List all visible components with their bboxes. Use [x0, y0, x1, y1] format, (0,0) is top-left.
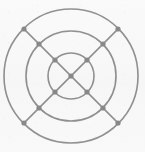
- concentric-ring-diagram: [0, 0, 145, 152]
- node-middle-ne: [100, 41, 105, 46]
- node-inner-sw: [52, 89, 57, 94]
- node-center: [68, 73, 73, 78]
- node-inner-ne: [84, 57, 89, 62]
- node-middle-sw: [36, 105, 41, 110]
- figure-container: [0, 0, 145, 152]
- node-outer-ne: [115, 26, 120, 31]
- node-inner-nw: [52, 57, 57, 62]
- node-inner-se: [84, 89, 89, 94]
- node-middle-se: [100, 105, 105, 110]
- node-outer-nw: [21, 26, 26, 31]
- node-outer-sw: [21, 120, 26, 125]
- node-middle-nw: [36, 41, 41, 46]
- node-outer-se: [115, 120, 120, 125]
